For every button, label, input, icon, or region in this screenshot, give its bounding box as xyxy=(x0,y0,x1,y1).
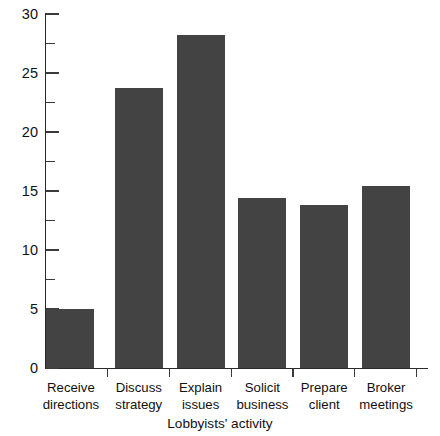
x-axis-category-label: Receivedirections xyxy=(32,379,110,413)
bar xyxy=(300,205,348,368)
y-axis-tick-label: 5 xyxy=(30,302,38,317)
x-axis-category-label-line: Broker xyxy=(347,379,425,396)
y-axis-tick-label: 0 xyxy=(30,361,38,376)
x-axis-category-tick xyxy=(107,369,108,377)
x-axis-category-label: Brokermeetings xyxy=(347,379,425,413)
bar xyxy=(238,198,286,368)
x-axis-category-tick xyxy=(292,369,293,377)
y-axis-tick-label: 15 xyxy=(22,184,38,199)
x-axis-category-labels: ReceivedirectionsDiscussstrategyExplaini… xyxy=(0,379,440,419)
y-axis-tick-label: 25 xyxy=(22,66,38,81)
x-axis-category-tick xyxy=(231,369,232,377)
bar xyxy=(46,309,94,368)
x-axis-title: Lobbyists' activity xyxy=(0,416,440,431)
x-axis-category-tick xyxy=(169,369,170,377)
x-axis-category-label-line: directions xyxy=(32,396,110,413)
y-axis-tick-label: 10 xyxy=(22,243,38,258)
y-axis-tick-label: 20 xyxy=(22,125,38,140)
x-axis-category-tick xyxy=(416,369,417,377)
x-axis-category-label-line: meetings xyxy=(347,396,425,413)
x-axis-category-label-line: Receive xyxy=(32,379,110,396)
bar xyxy=(115,88,163,368)
x-axis-line xyxy=(45,368,428,369)
y-axis-tick-label: 30 xyxy=(22,7,38,22)
bar xyxy=(177,35,225,368)
bar xyxy=(362,186,410,368)
plot-area xyxy=(46,14,428,368)
y-axis-tick-labels: 051015202530 xyxy=(0,0,38,436)
bar-chart: 051015202530 ReceivedirectionsDiscussstr… xyxy=(0,0,440,436)
x-axis-category-tick xyxy=(354,369,355,377)
